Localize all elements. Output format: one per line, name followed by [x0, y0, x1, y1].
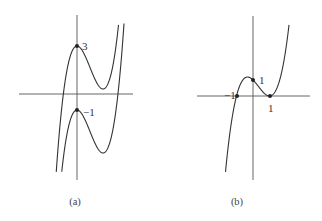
caption-a: (a)	[69, 196, 81, 208]
label-a-3: 3	[82, 40, 88, 52]
point-a-neg1	[75, 108, 79, 112]
label-b-1-x: 1	[268, 102, 274, 114]
figure: 3 −1 (a) −1 1 1 (b)	[0, 0, 322, 221]
point-b-0-1	[251, 78, 255, 82]
caption-b: (b)	[231, 196, 244, 208]
curve-a-lower	[62, 24, 124, 172]
label-b-neg1: −1	[224, 89, 236, 101]
panel-a: 3 −1 (a)	[19, 15, 133, 208]
label-a-neg1: −1	[83, 106, 95, 118]
point-b-1-0	[268, 94, 272, 98]
panel-b: −1 1 1 (b)	[197, 16, 310, 208]
point-a-3	[75, 44, 79, 48]
label-b-1-y: 1	[259, 74, 265, 86]
